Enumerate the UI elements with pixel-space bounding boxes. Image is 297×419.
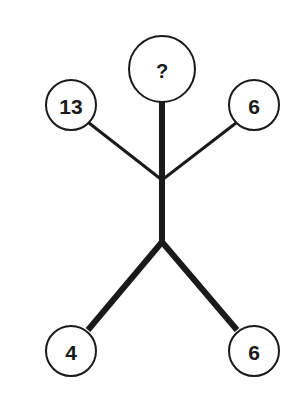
node-lower-left: 4: [46, 326, 96, 376]
node-upper-left: 13: [46, 80, 96, 130]
arm-upper-right: [162, 123, 236, 180]
leg-lower-right: [162, 242, 237, 330]
node-lower-right: 6: [229, 326, 279, 376]
node-lower-right-label: 6: [248, 341, 260, 364]
arm-upper-left: [89, 123, 162, 180]
leg-lower-left: [88, 242, 162, 330]
node-top: ?: [129, 36, 195, 102]
node-upper-left-label: 13: [59, 95, 82, 118]
node-lower-left-label: 4: [65, 341, 77, 364]
node-upper-right-label: 6: [248, 95, 260, 118]
number-tree-diagram: ? 13 6 4 6: [0, 0, 297, 419]
node-upper-right: 6: [229, 80, 279, 130]
diagram-canvas: ? 13 6 4 6: [0, 0, 297, 419]
node-top-label: ?: [156, 60, 168, 82]
